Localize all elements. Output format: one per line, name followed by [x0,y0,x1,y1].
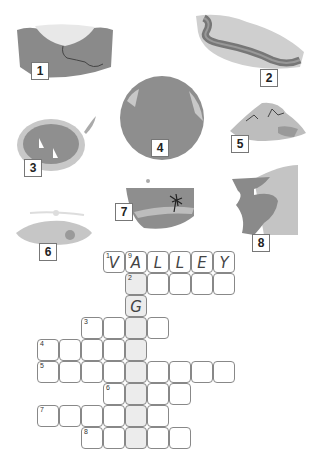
crossword-cell[interactable]: G [125,295,147,317]
picture-label-5: 5 [231,135,249,153]
crossword-cell[interactable] [59,361,81,383]
crossword-cell[interactable] [125,383,147,405]
crossword-cell[interactable] [147,405,169,427]
crossword-cell[interactable] [169,273,191,295]
crossword-cell[interactable] [103,405,125,427]
cell-letter: V [104,254,124,272]
crossword-cell[interactable]: 1V [103,251,125,273]
crossword-cell[interactable] [125,339,147,361]
crossword-cell[interactable]: Y [213,251,235,273]
picture-label-2: 2 [260,69,278,87]
crossword-cell[interactable]: 7 [37,405,59,427]
crossword-cell[interactable] [169,361,191,383]
crossword-cell[interactable]: L [147,251,169,273]
cell-letter: G [126,298,146,316]
crossword-cell[interactable] [147,427,169,449]
cell-letter: A [126,254,146,272]
crossword-cell[interactable] [147,383,169,405]
picture-label-4: 4 [151,139,169,157]
picture-label-3: 3 [24,159,42,177]
crossword-cell[interactable]: 2 [125,273,147,295]
crossword-cell[interactable] [125,361,147,383]
crossword-cell[interactable] [147,273,169,295]
crossword-cell[interactable] [169,427,191,449]
cell-letter: Y [214,254,234,272]
picture-island [124,178,196,232]
clue-number: 2 [128,274,132,281]
crossword-cell[interactable] [147,317,169,339]
crossword-cell[interactable] [125,427,147,449]
clue-number: 7 [40,406,44,413]
crossword-cell[interactable] [103,339,125,361]
crossword-cell[interactable]: 9A [125,251,147,273]
clue-number: 4 [40,340,44,347]
crossword-cell[interactable] [213,273,235,295]
crossword-cell[interactable] [81,339,103,361]
crossword-cell[interactable] [147,361,169,383]
crossword-cell[interactable]: E [191,251,213,273]
crossword-cell[interactable] [169,383,191,405]
crossword-cell[interactable]: L [169,251,191,273]
picture-label-1: 1 [31,62,49,80]
crossword-cell[interactable] [103,361,125,383]
crossword-cell[interactable]: 3 [81,317,103,339]
cell-letter: L [148,254,168,272]
crossword-cell[interactable]: 8 [81,427,103,449]
crossword-cell[interactable] [125,317,147,339]
picture-canyon [15,22,115,82]
picture-river [192,12,308,72]
crossword-cell[interactable]: 5 [37,361,59,383]
crossword-cell[interactable]: 6 [103,383,125,405]
crossword-cell[interactable] [191,361,213,383]
picture-cliff [230,165,298,237]
crossword-cell[interactable] [103,427,125,449]
clue-number: 3 [84,318,88,325]
picture-label-7: 7 [115,203,133,221]
crossword-cell[interactable] [213,361,235,383]
crossword-cell[interactable] [59,339,81,361]
cell-letter: L [170,254,190,272]
clue-number: 8 [84,428,88,435]
crossword-cell[interactable] [59,405,81,427]
clue-number: 5 [40,362,44,369]
crossword-cell[interactable] [81,361,103,383]
clue-number: 6 [106,384,110,391]
cell-letter: E [192,254,212,272]
crossword-cell[interactable] [81,405,103,427]
crossword-cell[interactable] [125,405,147,427]
crossword-cell[interactable] [103,317,125,339]
picture-plain [14,205,94,247]
crossword-cell[interactable] [191,273,213,295]
picture-label-6: 6 [39,243,57,261]
crossword-cell[interactable]: 4 [37,339,59,361]
picture-label-8: 8 [252,234,270,252]
